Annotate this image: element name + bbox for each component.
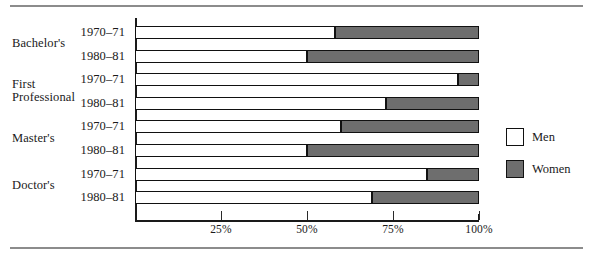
period-label: 1980–81 [55, 190, 125, 205]
x-axis-tick [307, 211, 308, 220]
bar-row [135, 144, 479, 157]
bar-row [135, 168, 479, 181]
legend-label-women: Women [532, 162, 571, 177]
x-axis-tick [221, 211, 222, 220]
group-label: Doctor's [12, 179, 124, 193]
bar-segment-women [335, 26, 479, 39]
bar-segment-men [135, 144, 307, 157]
x-axis-tick-label: 25% [210, 223, 232, 235]
x-axis-tick-label: 75% [382, 223, 404, 235]
group-label-line: Master's [12, 132, 124, 146]
group-label-line: Professional [12, 91, 124, 105]
x-axis-tick [393, 211, 394, 220]
bottom-divider-rule [10, 247, 583, 249]
group-label-line: First [12, 78, 124, 92]
legend-item-men: Men [506, 125, 571, 149]
bar-segment-women [307, 144, 479, 157]
stacked-bar-chart: 25%50%75%100% 1970–711980–811970–711980–… [0, 12, 593, 242]
x-axis-line [135, 220, 479, 222]
bar-row [135, 120, 479, 133]
legend-item-women: Women [506, 157, 571, 181]
bar-segment-men [135, 120, 341, 133]
bar-segment-men [135, 50, 307, 63]
group-label: Master's [12, 132, 124, 146]
bar-segment-men [135, 168, 427, 181]
period-label: 1980–81 [55, 49, 125, 64]
bar-row [135, 97, 479, 110]
bar-row [135, 50, 479, 63]
bar-segment-men [135, 97, 386, 110]
group-label-line: Bachelor's [12, 37, 124, 51]
top-divider-rule [10, 5, 583, 7]
legend-label-men: Men [532, 130, 555, 145]
bar-segment-women [307, 50, 479, 63]
bar-segment-women [427, 168, 479, 181]
bar-segment-women [386, 97, 479, 110]
bar-segment-women [341, 120, 479, 133]
chart-legend: Men Women [506, 125, 571, 189]
group-label: FirstProfessional [12, 78, 124, 105]
x-axis-tick [479, 211, 480, 220]
x-axis-tick-label: 100% [465, 223, 493, 235]
legend-swatch-women-icon [506, 160, 524, 178]
group-label-line: Doctor's [12, 179, 124, 193]
group-label: Bachelor's [12, 37, 124, 51]
x-axis-tick-label: 50% [296, 223, 318, 235]
bar-row [135, 191, 479, 204]
bar-segment-women [458, 73, 479, 86]
x-axis-left-cap [135, 214, 137, 221]
bar-segment-men [135, 26, 335, 39]
bar-segment-women [372, 191, 479, 204]
bar-row [135, 26, 479, 39]
bar-row [135, 73, 479, 86]
period-label: 1980–81 [55, 143, 125, 158]
bar-segment-men [135, 191, 372, 204]
legend-swatch-men-icon [506, 128, 524, 146]
bar-segment-men [135, 73, 458, 86]
